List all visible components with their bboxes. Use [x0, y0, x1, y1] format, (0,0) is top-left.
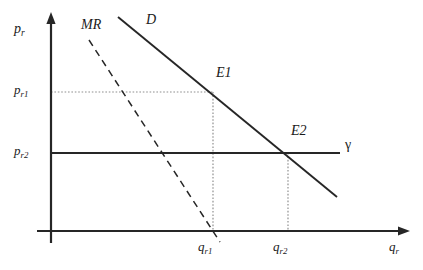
y-tick-label-pr1: pr1 — [14, 83, 28, 96]
point-label-e1: E1 — [216, 66, 232, 80]
point-label-e2: E2 — [291, 124, 307, 138]
y-tick-label-pr2: pr2 — [14, 144, 28, 157]
gamma-line-label: γ — [345, 138, 351, 152]
x-tick-label-qr2: qr2 — [273, 240, 287, 253]
x-axis-label: qr — [389, 240, 399, 253]
demand-curve — [118, 17, 337, 197]
y-axis-label: pr — [14, 22, 25, 36]
marginal-revenue-curve-label: MR — [81, 18, 101, 32]
marginal-revenue-curve — [89, 40, 220, 242]
x-tick-label-qr1: qr1 — [198, 240, 212, 253]
x-axis-arrowhead — [398, 226, 410, 235]
demand-curve-label: D — [146, 13, 156, 27]
y-axis-arrowhead — [46, 12, 55, 24]
economics-diagram: pr MR D E1 E2 γ pr1 pr2 qr1 qr2 qr — [0, 0, 423, 270]
diagram-canvas — [0, 0, 423, 270]
